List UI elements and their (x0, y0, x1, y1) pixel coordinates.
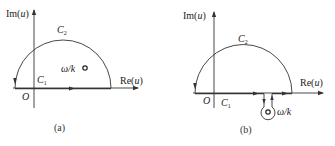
c2-arrow-icon (13, 78, 17, 85)
c1-label: C1 (221, 97, 231, 109)
contour-c2 (195, 45, 292, 94)
c1-arrow-icon (69, 87, 75, 91)
keyhole-down-arrow-icon (262, 99, 265, 104)
c1-label: C1 (37, 74, 47, 86)
c2-label: C2 (57, 24, 67, 36)
c1-arrow-icon-2 (282, 92, 288, 96)
caption-b: (b) (240, 124, 252, 136)
contour-diagram: Im(u) Re(u) O C2 C1 ω/k (a) Im(u) Re(u) (0, 0, 335, 146)
pole-icon (83, 66, 87, 70)
panel-a: Im(u) Re(u) O C2 C1 ω/k (a) (6, 8, 143, 134)
re-axis-label: Re(u) (300, 77, 323, 89)
origin-label: O (203, 95, 210, 106)
im-axis-label: Im(u) (6, 8, 29, 20)
caption-a: (a) (54, 122, 65, 134)
c2-label: C2 (238, 33, 248, 45)
pole-label: ω/k (277, 106, 292, 117)
re-axis-label: Re(u) (120, 75, 143, 87)
im-axis-label: Im(u) (183, 10, 206, 22)
keyhole-up-arrow-icon (270, 95, 273, 100)
c2-arrow-icon (193, 83, 197, 90)
origin-label: O (22, 91, 29, 102)
pole-label: ω/k (61, 63, 76, 74)
panel-b: Im(u) Re(u) O C2 C1 ω/k (b) (183, 10, 323, 136)
c1-arrow-icon (253, 92, 259, 96)
pole-icon (266, 110, 270, 114)
keyhole-detour (261, 94, 275, 120)
